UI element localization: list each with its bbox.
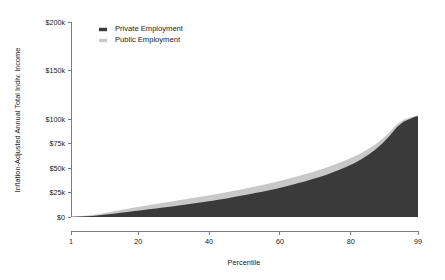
- legend-label: Private Employment: [115, 24, 184, 33]
- x-axis: 12040608099: [69, 231, 422, 246]
- x-axis-ticks: 12040608099: [69, 231, 422, 246]
- x-tick-label: 1: [69, 237, 73, 246]
- y-tick-label: $150k: [45, 66, 65, 75]
- y-tick-label: $25k: [49, 188, 65, 197]
- chart-canvas: $0$25k$50k$75k$100k$150k$200k 1204060809…: [0, 0, 445, 280]
- stacked-area-series: [71, 115, 418, 217]
- y-axis-title: Inflation-Adjusted Annual Total Indiv. I…: [13, 48, 22, 193]
- area-private-employment: [71, 116, 418, 217]
- y-tick-label: $0: [57, 213, 65, 222]
- x-axis-title: Percentile: [228, 258, 261, 267]
- x-tick-label: 40: [205, 237, 213, 246]
- y-tick-label: $50k: [49, 164, 65, 173]
- chart-legend: Private EmploymentPublic Employment: [99, 24, 184, 44]
- income-percentile-chart: $0$25k$50k$75k$100k$150k$200k 1204060809…: [0, 0, 445, 280]
- y-tick-label: $200k: [45, 18, 65, 27]
- x-tick-label: 80: [347, 237, 355, 246]
- y-axis-ticks: $0$25k$50k$75k$100k$150k$200k: [45, 18, 71, 222]
- y-axis: $0$25k$50k$75k$100k$150k$200k: [45, 18, 71, 222]
- legend-label: Public Employment: [115, 35, 181, 44]
- x-tick-label: 99: [414, 237, 422, 246]
- y-tick-label: $75k: [49, 139, 65, 148]
- legend-swatch: [99, 28, 107, 31]
- x-tick-label: 60: [276, 237, 284, 246]
- legend-swatch: [99, 39, 107, 42]
- x-tick-label: 20: [134, 237, 142, 246]
- y-tick-label: $100k: [45, 115, 65, 124]
